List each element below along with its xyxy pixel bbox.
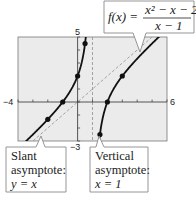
data-point [97,132,102,137]
data-point [120,73,125,78]
x-tick-label-max: 6 [170,97,175,107]
chart: −4 6 5 −3 f(x) = x² − x − 2 x − 1 Slant … [0,0,196,203]
y-tick-label-max: 5 [75,27,80,37]
data-point [75,73,80,78]
y-tick-label-min: −3 [70,142,80,152]
function-numerator: x² − x − 2 [144,2,196,17]
function-lhs: f(x) = [108,9,138,24]
data-point [105,99,110,104]
vertical-asymptote-callout: Vertical asymptote: x = 1 [90,136,150,192]
slant-label-line2: asymptote: [11,163,66,177]
function-denominator: x − 1 [154,18,183,33]
vertical-label-line1: Vertical [95,149,134,163]
slant-label-line3: y = x [9,177,37,191]
x-tick-label-min: −4 [3,97,13,107]
data-point [45,117,50,122]
slant-label-line1: Slant [11,149,37,163]
slant-asymptote-callout: Slant asymptote: y = x [6,136,66,192]
vertical-label-line3: x = 1 [94,177,121,191]
data-point [60,99,65,104]
vertical-label-line2: asymptote: [95,163,150,177]
data-point [82,41,87,46]
